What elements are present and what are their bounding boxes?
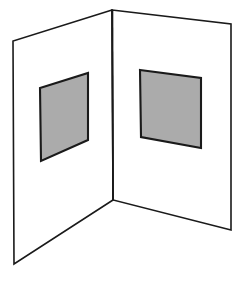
folded-card-illustration xyxy=(0,0,244,281)
center-fold-line xyxy=(113,10,114,200)
right-gray-patch xyxy=(140,70,201,148)
figure-canvas: Folded card with two gray patches xyxy=(0,0,244,281)
